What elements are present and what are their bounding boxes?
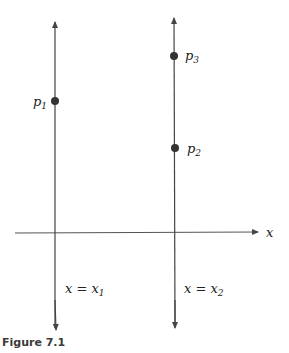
point-p2 xyxy=(171,144,179,152)
line-x2 xyxy=(174,18,175,325)
vertical-lines-diagram: x p1 p3 p2 x = x1 x = x2 xyxy=(0,0,289,353)
label-p3: p3 xyxy=(185,48,199,65)
point-p3 xyxy=(170,52,178,60)
label-p1: p1 xyxy=(33,94,47,111)
label-line-x1: x = x1 xyxy=(65,281,105,298)
label-p2: p2 xyxy=(187,141,201,158)
label-line-x2: x = x2 xyxy=(184,281,224,298)
x-axis xyxy=(15,232,258,233)
figure-caption: Figure 7.1 xyxy=(2,336,65,349)
point-p1 xyxy=(51,97,59,105)
x-axis-label: x xyxy=(266,225,274,240)
